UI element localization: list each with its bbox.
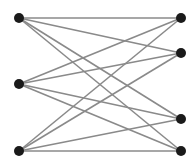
- node-L2: [14, 79, 24, 89]
- edges-group: [19, 18, 181, 151]
- node-R3: [176, 114, 186, 124]
- edge-L2-R1: [19, 18, 181, 84]
- bipartite-graph-diagram: [0, 0, 195, 163]
- node-L1: [14, 13, 24, 23]
- node-R2: [176, 48, 186, 58]
- node-L3: [14, 146, 24, 156]
- node-R4: [176, 146, 186, 156]
- node-R1: [176, 13, 186, 23]
- edge-L3-R3: [19, 119, 181, 151]
- edge-L2-R4: [19, 84, 181, 151]
- edge-L1-R2: [19, 18, 181, 53]
